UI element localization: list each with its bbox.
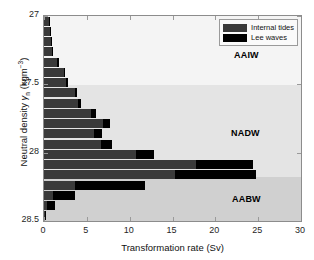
y-tick-mark [44, 221, 48, 222]
bar-segment-lee-waves [75, 181, 145, 190]
x-tick-label: 0 [28, 225, 58, 235]
bar-segment-internal-tides [44, 140, 101, 149]
y-tick-mark [44, 16, 48, 17]
bar-segment-internal-tides [44, 88, 75, 97]
bar-segment-internal-tides [44, 170, 175, 179]
y-axis-label: Neutral density γn (kgm−3) [17, 42, 31, 182]
x-tick-label: 15 [157, 225, 187, 235]
bar-segment-internal-tides [44, 150, 136, 159]
y-tick-mark [297, 16, 301, 17]
x-tick-mark [301, 217, 302, 221]
bar-segment-lee-waves [136, 150, 154, 159]
bar-row [44, 150, 154, 159]
bar-segment-internal-tides [44, 109, 91, 118]
bar-segment-internal-tides [44, 68, 64, 77]
bar-segment-lee-waves [66, 78, 68, 87]
bar-segment-internal-tides [44, 181, 75, 190]
bar-segment-lee-waves [196, 160, 253, 169]
x-tick-mark [130, 217, 131, 221]
bar-segment-internal-tides [44, 78, 66, 87]
x-tick-label: 10 [114, 225, 144, 235]
x-tick-mark [215, 16, 216, 20]
bar-segment-lee-waves [52, 47, 53, 56]
bar-row [44, 99, 81, 108]
legend-swatch-internal-tides [223, 24, 247, 32]
y-tick-mark [44, 153, 48, 154]
x-tick-mark [130, 16, 131, 20]
x-tick-mark [173, 16, 174, 20]
bar-row [44, 58, 59, 67]
bar-segment-lee-waves [91, 109, 96, 118]
x-tick-mark [87, 16, 88, 20]
bar-segment-lee-waves [49, 17, 50, 26]
bar-segment-lee-waves [50, 27, 51, 36]
bar-segment-lee-waves [175, 170, 256, 179]
bar-row [44, 109, 96, 118]
y-tick-mark [297, 84, 301, 85]
bar-segment-lee-waves [51, 37, 52, 46]
bar-row [44, 88, 77, 97]
bar-segment-lee-waves [103, 119, 110, 128]
bar-segment-internal-tides [44, 160, 196, 169]
bar-row [44, 170, 256, 179]
x-tick-label: 25 [242, 225, 272, 235]
bar-segment-lee-waves [78, 99, 81, 108]
x-tick-mark [173, 217, 174, 221]
y-tick-label: 28.5 [5, 214, 39, 224]
bar-row [44, 68, 65, 77]
bar-segment-lee-waves [47, 201, 55, 210]
bar-row [44, 140, 112, 149]
bar-segment-internal-tides [44, 99, 78, 108]
x-axis-label: Transformation rate (Sv) [43, 242, 302, 253]
bar-segment-lee-waves [57, 58, 58, 67]
bar-row [44, 47, 53, 56]
legend-item-lee-waves: Lee waves [223, 33, 294, 42]
x-tick-label: 30 [285, 225, 314, 235]
legend-label-internal-tides: Internal tides [251, 24, 294, 32]
x-tick-mark [87, 217, 88, 221]
y-tick-label: 27 [5, 9, 39, 19]
x-tick-label: 5 [71, 225, 101, 235]
bar-segment-lee-waves [94, 129, 102, 138]
bar-segment-internal-tides [44, 37, 51, 46]
bar-segment-lee-waves [101, 140, 111, 149]
bar-row [44, 37, 52, 46]
bar-segment-lee-waves [53, 191, 74, 200]
bar-segment-lee-waves [75, 88, 77, 97]
band-label-aabw: AABW [232, 194, 261, 204]
bar-segment-internal-tides [44, 58, 57, 67]
bar-row [44, 201, 55, 210]
plot-area: AAIW NADW AABW Internal tides Lee waves [43, 15, 302, 222]
x-tick-mark [301, 16, 302, 20]
bar-row [44, 160, 253, 169]
bar-row [44, 191, 75, 200]
bar-segment-internal-tides [44, 129, 94, 138]
legend-item-internal-tides: Internal tides [223, 23, 294, 32]
bar-segment-internal-tides [44, 119, 103, 128]
y-tick-mark [297, 221, 301, 222]
x-tick-mark [258, 217, 259, 221]
x-tick-mark [215, 217, 216, 221]
bar-row [44, 78, 68, 87]
bar-row [44, 27, 51, 36]
y-tick-mark [44, 84, 48, 85]
y-tick-mark [297, 153, 301, 154]
x-tick-label: 20 [199, 225, 229, 235]
band-label-nadw: NADW [231, 128, 260, 138]
figure: AAIW NADW AABW Internal tides Lee waves … [0, 0, 314, 260]
bar-row [44, 119, 110, 128]
band-label-aaiw: AAIW [234, 50, 259, 60]
bar-row [44, 129, 102, 138]
legend-label-lee-waves: Lee waves [251, 34, 287, 42]
legend: Internal tides Lee waves [219, 19, 298, 46]
bar-segment-internal-tides [44, 47, 52, 56]
bar-segment-internal-tides [44, 191, 53, 200]
legend-swatch-lee-waves [223, 34, 247, 42]
y-axis-label-text: Neutral density γn (kgm−3) [18, 58, 29, 167]
bar-segment-lee-waves [64, 68, 65, 77]
bar-row [44, 181, 145, 190]
